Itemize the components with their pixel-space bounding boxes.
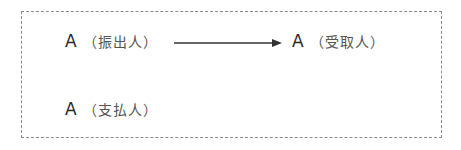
drawer-letter: A bbox=[65, 31, 77, 51]
drawer-role: （振出人） bbox=[83, 31, 158, 51]
payee-node: A （受取人） bbox=[292, 31, 385, 51]
payer-node: A （支払人） bbox=[65, 99, 158, 119]
payee-letter: A bbox=[292, 31, 304, 51]
payer-role: （支払人） bbox=[83, 99, 158, 119]
payer-letter: A bbox=[65, 99, 77, 119]
payee-role: （受取人） bbox=[310, 31, 385, 51]
drawer-node: A （振出人） bbox=[65, 31, 158, 51]
arrow-icon bbox=[174, 37, 284, 49]
